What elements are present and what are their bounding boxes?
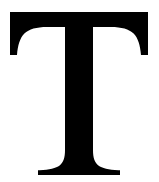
- letter-t-glyph-svg: [0, 0, 159, 182]
- glyph-canvas: T: [0, 0, 159, 182]
